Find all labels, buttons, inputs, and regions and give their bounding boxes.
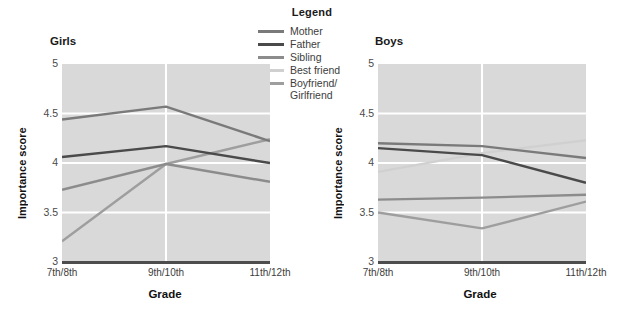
panel-title-boys: Boys [375,35,403,47]
y-tick-label: 4.5 [32,107,58,119]
x-tick-label: 11th/12th [236,267,304,278]
plot-area-boys [378,64,586,262]
x-axis-line-boys [378,261,586,264]
x-tick-label: 7th/8th [28,267,96,278]
figure: Legend Mother Father Sibling Best friend… [0,0,625,310]
y-tick-label: 4 [32,156,58,168]
y-tick-label: 4.5 [348,107,374,119]
x-axis-label-boys: Grade [375,288,585,300]
y-tick-label: 3 [348,255,374,267]
y-tick-label: 3.5 [348,206,374,218]
y-tick-label: 5 [32,57,58,69]
panel-girls: Girls Importance score Grade 33.544.557t… [0,0,312,310]
x-tick-label: 9th/10th [132,267,200,278]
y-axis-label-girls: Importance score [16,118,28,228]
panel-title-girls: Girls [50,35,76,47]
x-axis-line-girls [62,261,270,264]
y-tick-label: 3 [32,255,58,267]
y-tick-label: 5 [348,57,374,69]
panel-boys: Boys Importance score Grade 33.544.557th… [320,0,625,310]
plot-area-girls [62,64,270,262]
x-axis-label-girls: Grade [60,288,270,300]
x-tick-label: 11th/12th [552,267,620,278]
x-tick-label: 9th/10th [448,267,516,278]
x-tick-label: 7th/8th [344,267,412,278]
y-tick-label: 3.5 [32,206,58,218]
plot-svg-girls [62,64,270,262]
y-axis-label-boys: Importance score [332,118,344,228]
y-tick-label: 4 [348,156,374,168]
plot-svg-boys [378,64,586,262]
